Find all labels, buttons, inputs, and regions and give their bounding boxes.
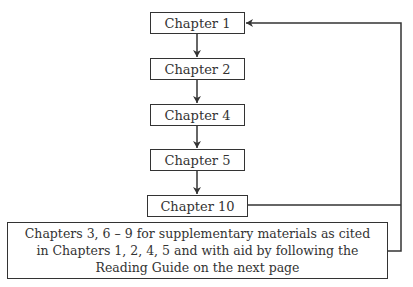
reading-flow-diagram: Chapter 1 Chapter 2 Chapter 4 Chapter 5 … (0, 0, 413, 287)
supplementary-line-1: Chapters 3, 6 – 9 for supplementary mate… (25, 225, 370, 242)
node-chapter-1: Chapter 1 (150, 12, 245, 34)
node-chapter-5: Chapter 5 (150, 149, 245, 171)
node-supplementary-chapters: Chapters 3, 6 – 9 for supplementary mate… (7, 222, 388, 279)
supplementary-line-2: in Chapters 1, 2, 4, 5 and with aid by f… (36, 242, 358, 259)
supplementary-line-3: Reading Guide on the next page (95, 259, 299, 276)
node-chapter-10: Chapter 10 (147, 195, 248, 217)
node-chapter-2: Chapter 2 (150, 58, 245, 80)
node-chapter-4: Chapter 4 (150, 104, 245, 126)
